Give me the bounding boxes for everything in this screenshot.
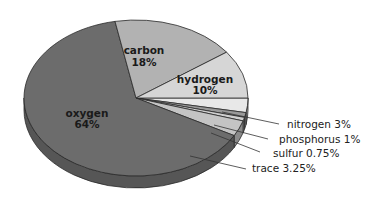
pie-chart: carbon 18% hydrogen 10% oxygen 64% nitro…	[0, 0, 368, 200]
label-carbon-name: carbon	[124, 44, 165, 56]
label-carbon-pct: 18%	[131, 56, 157, 68]
label-trace: trace 3.25%	[252, 162, 316, 174]
label-oxygen-pct: 64%	[74, 118, 100, 130]
label-sulfur: sulfur 0.75%	[273, 147, 339, 159]
label-hydrogen-pct: 10%	[192, 84, 218, 96]
label-nitrogen: nitrogen 3%	[287, 118, 351, 130]
label-phosphorus: phosphorus 1%	[279, 133, 360, 145]
